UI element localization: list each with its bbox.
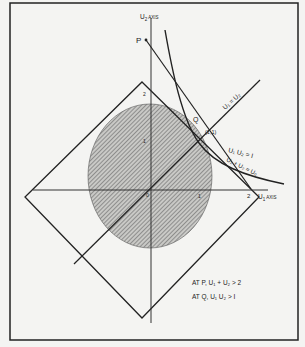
- diagram-canvas: P Q (1,1) U2 AXIS U1 AXIS 2 1 1 2 0 U₁ =…: [0, 0, 305, 347]
- tick-u1-1: 1: [198, 193, 201, 199]
- u2-axis-label: U2 AXIS: [140, 13, 158, 22]
- annotation-at-q: AT Q, U₁ U₂ > I: [192, 293, 235, 301]
- tick-u2-2: 2: [143, 91, 146, 97]
- annotation-at-p: AT P, U₁ + U₂ > 2: [192, 279, 242, 286]
- tick-u2-1: 1: [143, 138, 146, 144]
- point-p-marker: [145, 39, 148, 42]
- point-p-label: P: [136, 36, 141, 45]
- origin-label: 0: [146, 192, 149, 198]
- label-tangent-line: U₁ + U₂ = U₀: [226, 157, 259, 177]
- tick-u1-2: 2: [247, 193, 251, 199]
- shaded-region: [88, 104, 212, 248]
- point-q-label: Q: [193, 116, 199, 124]
- u1-axis-label: U1 AXIS: [258, 193, 276, 202]
- point-one-one-label: (1,1): [205, 129, 216, 135]
